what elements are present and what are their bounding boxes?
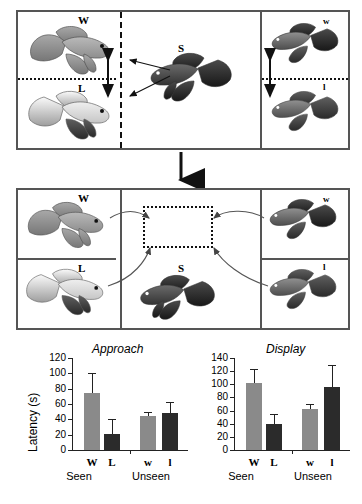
chart-approach-yaxis xyxy=(72,358,73,450)
arrow-w-to-zone xyxy=(214,211,264,218)
top-panel-graphics: W L S xyxy=(18,12,348,148)
chart-approach-title: Approach xyxy=(92,342,143,356)
fish-w-bottom xyxy=(270,199,336,238)
chart-display-title: Display xyxy=(266,342,305,356)
fish-S-bottom xyxy=(141,275,215,319)
label-L-top: L xyxy=(78,82,85,94)
bar-w xyxy=(302,409,318,450)
errorbar-cap xyxy=(328,365,336,366)
ytick-mark xyxy=(230,358,234,359)
errorbar-L xyxy=(112,419,113,434)
label-w-top: w xyxy=(323,16,330,26)
bar-w xyxy=(140,416,156,450)
ytick-label: 100 xyxy=(32,367,66,378)
label-S-bottom: S xyxy=(178,262,184,274)
bar-l xyxy=(324,387,340,450)
label-w-bottom: w xyxy=(323,194,330,204)
xtick-label-l: l xyxy=(318,456,346,468)
ytick-mark xyxy=(68,419,72,420)
arrow-l-to-zone xyxy=(214,248,268,286)
ytick-label: 140 xyxy=(194,352,228,363)
ytick-mark xyxy=(68,435,72,436)
ytick-mark xyxy=(230,450,234,451)
ytick-label: 40 xyxy=(32,413,66,424)
fish-W-bottom xyxy=(28,202,103,247)
errorbar-cap xyxy=(250,369,258,370)
bottom-panel-test: W L S xyxy=(16,188,350,330)
ytick-mark xyxy=(230,397,234,398)
fish-S-top xyxy=(151,53,231,101)
arrow-W-to-zone xyxy=(110,211,149,218)
xaxis-group-separator xyxy=(292,450,293,454)
ytick-mark xyxy=(230,411,234,412)
label-W-bottom: W xyxy=(78,192,89,204)
chart-approach-group-unseen: Unseen xyxy=(106,470,196,482)
errorbar-cap xyxy=(108,419,116,420)
errorbar-cap xyxy=(166,402,174,403)
ytick-mark xyxy=(68,389,72,390)
bar-W xyxy=(84,393,100,450)
ytick-label: 0 xyxy=(194,444,228,455)
fish-W-top xyxy=(30,26,108,74)
ytick-label: 40 xyxy=(194,418,228,429)
ytick-label: 60 xyxy=(194,405,228,416)
ytick-mark xyxy=(68,404,72,405)
arrow-S-to-L xyxy=(130,76,170,96)
label-S-top: S xyxy=(178,42,184,54)
label-W-top: W xyxy=(78,14,89,26)
charts-row: Approach Latency (s) 020406080100120 WLw… xyxy=(0,340,362,504)
ytick-mark xyxy=(230,424,234,425)
bar-l xyxy=(162,413,178,450)
bottom-panel-graphics: W L S xyxy=(18,190,348,328)
ytick-label: 20 xyxy=(194,431,228,442)
errorbar-cap xyxy=(270,414,278,415)
figure-betta-observation: W L S xyxy=(0,0,362,504)
ytick-label: 80 xyxy=(194,391,228,402)
ytick-label: 0 xyxy=(32,444,66,455)
chart-approach: Approach Latency (s) 020406080100120 WLw… xyxy=(14,340,192,504)
arrow-S-to-W xyxy=(130,60,170,70)
ytick-label: 120 xyxy=(194,365,228,376)
label-l-bottom: l xyxy=(323,262,326,272)
xtick-label-L: L xyxy=(260,456,288,468)
chart-display-yaxis xyxy=(234,358,235,450)
top-panel-pretest: W L S xyxy=(16,10,350,150)
xtick-label-l: l xyxy=(156,456,184,468)
bar-W xyxy=(246,383,262,450)
ytick-label: 100 xyxy=(194,378,228,389)
fish-l-top xyxy=(272,91,338,130)
arrow-L-to-zone xyxy=(108,248,150,286)
ytick-mark xyxy=(230,437,234,438)
ytick-mark xyxy=(68,450,72,451)
chart-display-group-unseen: Unseen xyxy=(268,470,358,482)
ytick-label: 80 xyxy=(32,383,66,394)
label-l-top: l xyxy=(323,82,326,92)
errorbar-W xyxy=(254,369,255,383)
xtick-label-L: L xyxy=(98,456,126,468)
errorbar-W xyxy=(92,373,93,394)
label-L-bottom: L xyxy=(78,262,85,274)
ytick-label: 120 xyxy=(32,352,66,363)
fish-w-top xyxy=(272,23,338,62)
errorbar-L xyxy=(274,414,275,424)
ytick-mark xyxy=(230,371,234,372)
ytick-label: 60 xyxy=(32,398,66,409)
errorbar-cap xyxy=(306,404,314,405)
chart-display: Display 020406080100120140 WLwl Seen Uns… xyxy=(190,340,362,504)
bar-L xyxy=(266,424,282,450)
ytick-label: 20 xyxy=(32,429,66,440)
errorbar-l xyxy=(170,402,171,413)
bar-L xyxy=(104,434,120,450)
fish-l-bottom xyxy=(270,269,336,308)
errorbar-l xyxy=(332,365,333,387)
fish-L-top xyxy=(29,91,109,139)
ytick-mark xyxy=(68,358,72,359)
ytick-mark xyxy=(68,373,72,374)
errorbar-cap xyxy=(144,412,152,413)
ytick-mark xyxy=(230,384,234,385)
errorbar-cap xyxy=(88,373,96,374)
fish-L-bottom xyxy=(27,269,103,314)
xaxis-group-separator xyxy=(130,450,131,454)
